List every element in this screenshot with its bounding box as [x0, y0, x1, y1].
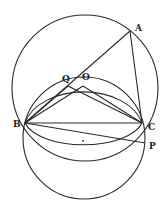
- label-b: B: [13, 119, 21, 129]
- segment-bo: [25, 86, 83, 123]
- segment-oc: [83, 86, 142, 123]
- arc-boc: [25, 92, 142, 145]
- geometry-diagram: A Q O B C P: [0, 0, 163, 209]
- center-dot: [82, 140, 84, 142]
- label-c: C: [148, 122, 155, 132]
- segment-bq: [25, 86, 68, 123]
- circumcircle-abc: [12, 15, 158, 161]
- label-p: P: [149, 141, 156, 151]
- label-o: O: [82, 72, 90, 82]
- label-a: A: [134, 23, 143, 33]
- segment-bp: [25, 123, 145, 143]
- segment-ac: [130, 31, 142, 123]
- lower-circle: [23, 77, 145, 199]
- label-q: Q: [62, 74, 70, 84]
- segment-qc: [68, 86, 142, 123]
